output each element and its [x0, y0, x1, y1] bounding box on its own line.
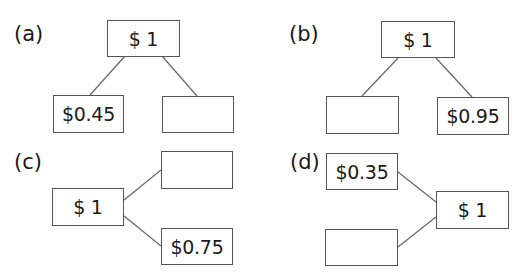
connector-b-left	[362, 58, 398, 96]
connector-c-top	[124, 170, 161, 200]
diagram-c-label: (c)	[14, 152, 42, 173]
diagram-b-whole-box: $ 1	[381, 21, 455, 58]
diagram-c-part-top-box[interactable]	[161, 151, 233, 189]
connector-c-bottom	[124, 216, 161, 246]
diagram-c-part-bottom-box: $0.75	[161, 228, 233, 265]
diagram-d-whole-box: $ 1	[436, 191, 509, 229]
diagram-d-label: (d)	[290, 152, 320, 173]
connector-a-left	[90, 56, 125, 95]
diagram-a-whole-box: $ 1	[107, 20, 180, 57]
diagram-c-whole-box: $ 1	[52, 188, 124, 226]
diagram-b-label: (b)	[289, 24, 319, 45]
diagram-a-part-left-box: $0.45	[53, 95, 124, 133]
diagram-b-part-right-box: $0.95	[437, 97, 509, 135]
diagram-a-part-right-box[interactable]	[162, 96, 234, 133]
diagram-a-label: (a)	[14, 24, 43, 45]
diagram-b-part-left-box[interactable]	[326, 96, 399, 134]
connector-d-top	[398, 172, 436, 202]
diagram-d-part-bottom-box[interactable]	[325, 229, 398, 266]
connector-a-right	[162, 56, 197, 96]
connector-b-right	[436, 58, 472, 97]
diagram-d-part-top-box: $0.35	[326, 153, 398, 190]
connector-d-bottom	[398, 217, 436, 247]
